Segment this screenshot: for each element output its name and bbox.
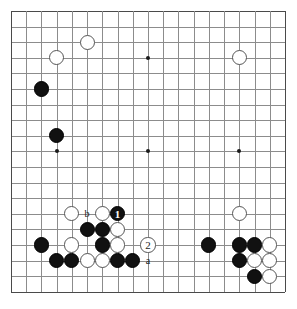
star-point xyxy=(146,56,150,60)
stone-black[interactable] xyxy=(64,253,79,268)
stone-white[interactable] xyxy=(80,253,95,268)
move-number-label: 1 xyxy=(108,209,128,220)
stone-white[interactable] xyxy=(80,35,95,50)
stone-white[interactable] xyxy=(49,50,64,65)
stone-white[interactable] xyxy=(247,253,262,268)
grid-line-vertical xyxy=(133,11,134,292)
stone-black[interactable] xyxy=(95,222,110,237)
grid-line-vertical xyxy=(194,11,195,292)
star-point xyxy=(237,149,241,153)
stone-black[interactable] xyxy=(232,237,247,252)
stone-black[interactable] xyxy=(80,222,95,237)
go-diagram: 12ba xyxy=(0,0,297,309)
star-point xyxy=(55,149,59,153)
grid-line-vertical xyxy=(224,11,225,292)
stone-white[interactable] xyxy=(262,253,277,268)
stone-black[interactable] xyxy=(34,81,49,96)
stone-black[interactable] xyxy=(201,237,216,252)
stone-black[interactable] xyxy=(49,253,64,268)
grid-line-vertical xyxy=(87,11,88,292)
grid-line-vertical xyxy=(26,11,27,292)
point-label-a: a xyxy=(139,256,157,266)
stone-black[interactable] xyxy=(110,253,125,268)
stone-white[interactable] xyxy=(232,50,247,65)
stone-black[interactable] xyxy=(95,237,110,252)
stone-black[interactable] xyxy=(49,128,64,143)
go-board[interactable]: 12ba xyxy=(11,11,285,292)
move-number-label: 2 xyxy=(138,240,158,251)
grid-line-vertical xyxy=(163,11,164,292)
grid-line-vertical xyxy=(178,11,179,292)
point-label-b: b xyxy=(78,209,96,219)
stone-black[interactable] xyxy=(247,237,262,252)
stone-white[interactable] xyxy=(262,269,277,284)
stone-white[interactable] xyxy=(232,206,247,221)
grid-line-horizontal xyxy=(11,292,285,293)
stone-black[interactable] xyxy=(232,253,247,268)
stone-white[interactable] xyxy=(95,253,110,268)
stone-black[interactable] xyxy=(247,269,262,284)
grid-line-vertical xyxy=(285,11,286,292)
stone-black[interactable] xyxy=(34,237,49,252)
stone-white[interactable] xyxy=(110,222,125,237)
star-point xyxy=(146,149,150,153)
stone-white[interactable] xyxy=(110,237,125,252)
stone-white[interactable] xyxy=(64,237,79,252)
stone-white[interactable] xyxy=(262,237,277,252)
grid-line-vertical xyxy=(11,11,12,292)
